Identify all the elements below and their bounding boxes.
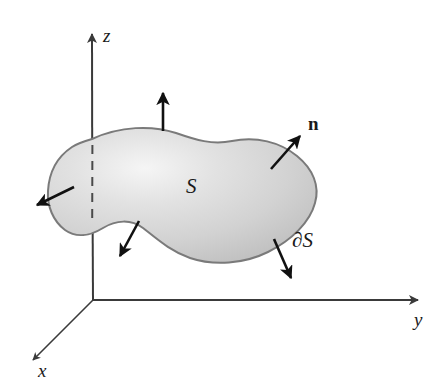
normal-vector-label: n — [308, 114, 319, 133]
y-axis-label: y — [414, 310, 422, 329]
surface-integral-figure: z y x S ∂S n — [0, 0, 446, 387]
normal-arrow-lower-left — [120, 221, 139, 256]
z-axis-label: z — [103, 26, 110, 45]
x-axis — [33, 300, 93, 360]
figure-canvas — [0, 0, 446, 387]
surface-label: S — [186, 176, 197, 197]
normal-arrow-lower-right — [274, 239, 291, 278]
x-axis-label: x — [38, 361, 46, 380]
boundary-label: ∂S — [292, 230, 313, 251]
